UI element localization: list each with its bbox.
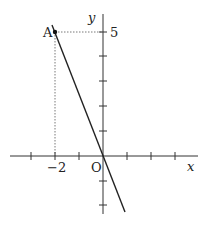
tick-label-y-5: 5 <box>110 25 118 40</box>
x-axis-label: x <box>187 159 195 174</box>
coordinate-plane: A y 5 −2 O x <box>0 0 213 228</box>
point-a <box>53 30 57 34</box>
origin-label: O <box>91 160 102 175</box>
graph-line <box>52 25 125 212</box>
point-a-label: A <box>42 25 53 40</box>
tick-label-x-neg2: −2 <box>47 160 66 175</box>
y-axis-label: y <box>87 10 96 25</box>
